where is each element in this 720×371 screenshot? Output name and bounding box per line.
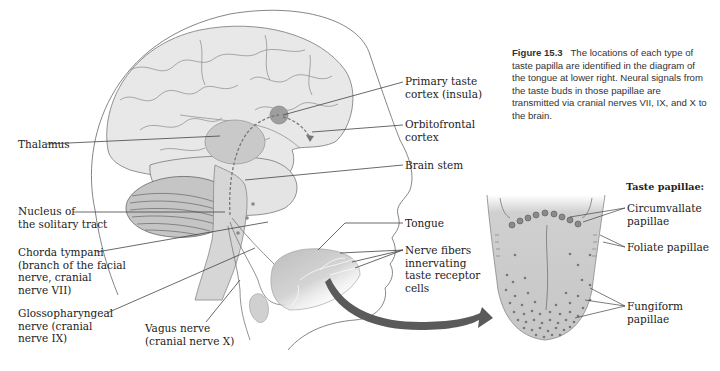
figure-caption-text: The locations of each type of taste papi…	[512, 47, 707, 121]
label-nucleus-solitary-tract: Nucleus of the solitary tract	[18, 205, 107, 230]
figure-caption: Figure 15.3 The locations of each type o…	[512, 47, 708, 123]
label-fungiform-papillae: Fungiform papillae	[627, 300, 683, 325]
figure-number: Figure 15.3	[512, 47, 563, 58]
label-brain-stem: Brain stem	[405, 159, 463, 172]
tongue-diagram	[487, 195, 625, 340]
label-orbitofrontal-cortex: Orbitofrontal cortex	[405, 118, 475, 143]
label-chorda-tympani: Chorda tympani (branch of the facial ner…	[18, 246, 126, 296]
label-foliate-papillae: Foliate papillae	[627, 241, 709, 254]
label-circumvallate-papillae: Circumvallate papillae	[627, 202, 702, 227]
label-glossopharyngeal-nerve: Glossopharyngeal nerve (cranial nerve IX…	[18, 307, 113, 345]
label-primary-taste-cortex: Primary taste cortex (insula)	[405, 75, 482, 100]
label-vagus-nerve: Vagus nerve (cranial nerve X)	[145, 322, 234, 347]
label-thalamus: Thalamus	[18, 138, 70, 151]
taste-papillae-title: Taste papillae:	[626, 181, 704, 192]
label-tongue: Tongue	[405, 217, 444, 230]
label-nerve-fibers: Nerve fibers innervating taste receptor …	[405, 244, 480, 294]
